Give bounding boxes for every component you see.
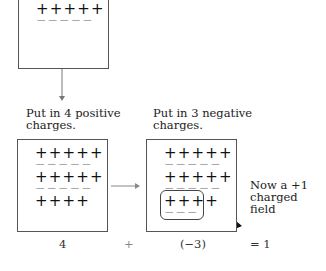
plus-row: ++++ [35, 194, 90, 208]
equation-term-1: 4 [59, 237, 66, 251]
arrow-down-icon [59, 96, 65, 101]
arrow-right-icon [135, 183, 140, 189]
equation-term-2: (−3) [180, 237, 206, 251]
cancel-group-outline [160, 190, 204, 220]
negative-charges-box: +++++ −−−−− +++++ −−−−− ++++ −−− [146, 139, 237, 232]
equation-plus: + [124, 237, 134, 251]
minus-row: −−−−− [36, 15, 94, 25]
initial-field-box: +++++ −−−−− [18, 0, 109, 69]
positive-charges-box: +++++ −−−−− +++++ −−−−− ++++ [17, 139, 108, 232]
equation-result: = 1 [250, 237, 271, 251]
caption-negative: Put in 3 negative charges. [153, 107, 252, 131]
caption-positive: Put in 4 positive charges. [26, 107, 121, 131]
annotation-text: Now a +1 charged field [250, 179, 326, 215]
